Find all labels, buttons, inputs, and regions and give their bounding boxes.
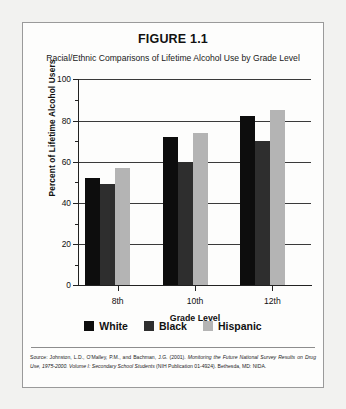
legend-item-black[interactable]: Black xyxy=(144,320,187,332)
bar-hispanic-12th xyxy=(270,110,285,285)
y-tick-minor xyxy=(75,182,79,183)
y-axis-label: Percent of Lifetime Alcohol Users xyxy=(47,43,57,213)
chart-legend: WhiteBlackHispanic xyxy=(23,320,323,332)
source-note: Source: Johnston, L.D., O'Malley, P.M., … xyxy=(30,353,316,371)
legend-label: Black xyxy=(159,320,187,332)
plot-area: 020406080100 8th10th12th Grade Level xyxy=(79,79,311,285)
x-tick xyxy=(195,285,196,291)
y-tick-major xyxy=(73,121,79,122)
x-tick xyxy=(118,285,119,291)
source-divider xyxy=(31,347,315,348)
x-tick xyxy=(272,285,273,291)
gridline xyxy=(79,79,311,80)
y-tick-label: 20 xyxy=(45,240,71,248)
y-tick-label: 60 xyxy=(45,158,71,166)
y-tick-minor xyxy=(75,224,79,225)
y-tick-major xyxy=(73,203,79,204)
bar-hispanic-10th xyxy=(193,133,208,285)
y-tick-minor xyxy=(75,100,79,101)
legend-label: Hispanic xyxy=(218,320,262,332)
legend-swatch-icon-white xyxy=(84,321,94,331)
y-tick-major xyxy=(73,79,79,80)
bar-black-12th xyxy=(255,141,270,285)
legend-swatch-icon-hispanic xyxy=(203,321,213,331)
y-tick-major xyxy=(73,162,79,163)
y-tick-minor xyxy=(75,265,79,266)
y-tick-major xyxy=(73,244,79,245)
y-tick-label: 40 xyxy=(45,199,71,207)
y-tick-major xyxy=(73,285,79,286)
x-tick-label-10th: 10th xyxy=(170,296,220,306)
bar-white-10th xyxy=(163,137,178,285)
legend-item-hispanic[interactable]: Hispanic xyxy=(203,320,262,332)
source-suffix: (NIH Publication 01-4924). Bethesda, MD:… xyxy=(155,363,267,369)
y-tick-minor xyxy=(75,141,79,142)
figure-title: FIGURE 1.1 xyxy=(23,32,323,46)
bar-black-8th xyxy=(100,184,115,285)
figure-panel: FIGURE 1.1 Racial/Ethnic Comparisons of … xyxy=(22,22,324,388)
legend-swatch-icon-black xyxy=(144,321,154,331)
y-tick-label: 100 xyxy=(45,75,71,83)
bar-black-10th xyxy=(178,162,193,286)
x-tick-label-8th: 8th xyxy=(93,296,143,306)
bar-hispanic-8th xyxy=(115,168,130,285)
y-tick-label: 80 xyxy=(45,117,71,125)
figure-subtitle: Racial/Ethnic Comparisons of Lifetime Al… xyxy=(23,53,323,63)
source-prefix: Source: Johnston, L.D., O'Malley, P.M., … xyxy=(30,354,188,360)
bar-white-12th xyxy=(240,116,255,285)
plot-wrapper: Percent of Lifetime Alcohol Users 020406… xyxy=(23,71,323,303)
y-tick-label: 0 xyxy=(45,281,71,289)
legend-item-white[interactable]: White xyxy=(84,320,128,332)
bar-white-8th xyxy=(85,178,100,285)
legend-label: White xyxy=(99,320,128,332)
x-tick-label-12th: 12th xyxy=(247,296,297,306)
